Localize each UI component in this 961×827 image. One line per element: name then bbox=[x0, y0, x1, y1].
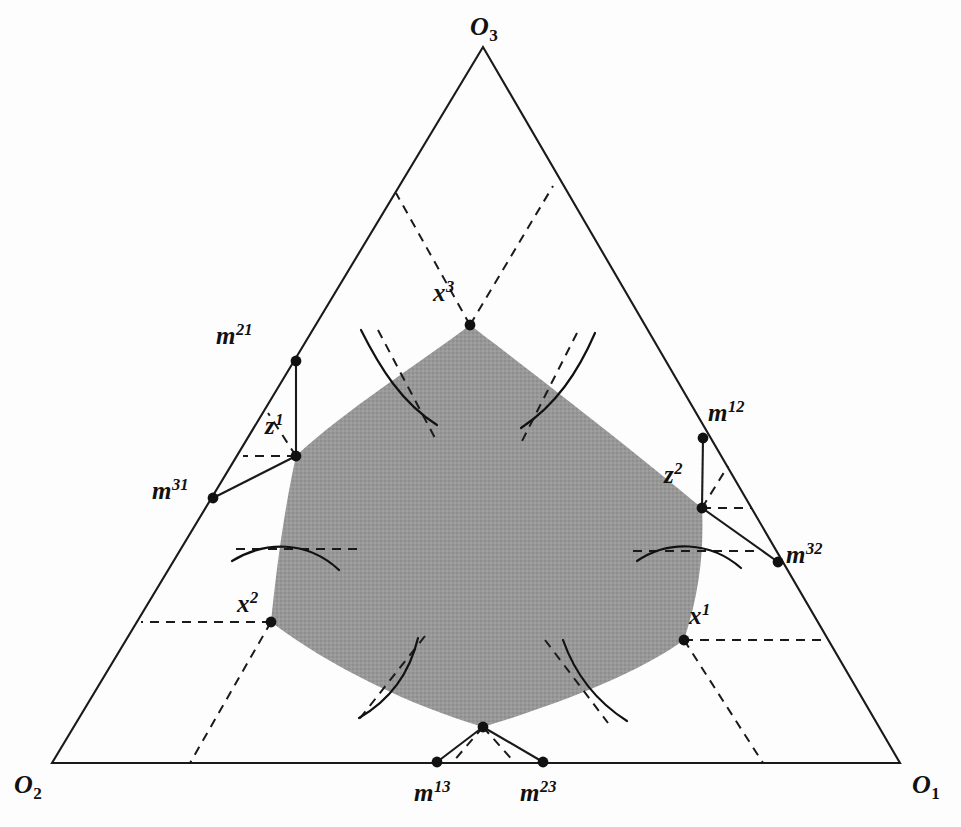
corner-label-O1-base: O bbox=[912, 770, 931, 799]
point-label-z1-superscript: 1 bbox=[275, 410, 283, 429]
core-region-shaded bbox=[271, 325, 702, 727]
point-label-m31-superscript: 31 bbox=[172, 475, 189, 494]
point-label-z2: z2 bbox=[664, 462, 682, 487]
point-label-x2-base: x bbox=[237, 590, 250, 617]
point-label-m21: m21 bbox=[216, 323, 252, 348]
connector-m12-z2 bbox=[702, 438, 703, 508]
point-label-m31-base: m bbox=[152, 477, 171, 504]
point-label-m32-superscript: 32 bbox=[806, 539, 823, 558]
connector-m31-z1 bbox=[213, 456, 296, 498]
point-label-x2: x2 bbox=[237, 591, 258, 616]
corner-label-O3: O3 bbox=[470, 14, 498, 40]
point-label-x1: x1 bbox=[689, 603, 710, 628]
point-label-x1-superscript: 1 bbox=[702, 600, 710, 619]
point-label-z2-superscript: 2 bbox=[674, 459, 682, 478]
point-label-m12-base: m bbox=[708, 399, 727, 426]
point-label-m13: m13 bbox=[414, 780, 450, 805]
point-label-x1-base: x bbox=[689, 602, 702, 629]
dot-x3 bbox=[465, 320, 476, 331]
point-label-m12: m12 bbox=[708, 400, 744, 425]
diagram-canvas: O3 O2 O1 x3 x2 x1 z1 z2 m21 m31 m12 m32 … bbox=[0, 0, 961, 827]
connector-m13-z3 bbox=[437, 727, 483, 762]
dot-x1 bbox=[679, 635, 690, 646]
dashed-z3-downright bbox=[483, 727, 515, 763]
point-label-m32: m32 bbox=[786, 542, 822, 567]
point-label-z2-base: z bbox=[664, 461, 674, 488]
dashed-x2-downright bbox=[190, 622, 271, 763]
dot-x2 bbox=[266, 617, 277, 628]
dot-m13 bbox=[432, 757, 443, 768]
point-label-m21-superscript: 21 bbox=[236, 320, 253, 339]
corner-label-O2-subscript: 2 bbox=[33, 784, 42, 803]
point-label-m23: m23 bbox=[520, 780, 556, 805]
point-label-z1-base: z bbox=[265, 412, 275, 439]
connector-m23-z3 bbox=[483, 727, 543, 762]
dot-m23 bbox=[538, 757, 549, 768]
dot-m31 bbox=[208, 493, 219, 504]
corner-label-O3-subscript: 3 bbox=[489, 26, 498, 45]
dashed-x3-upright bbox=[470, 186, 553, 325]
simplex-diagram-svg bbox=[0, 0, 961, 827]
dot-m12 bbox=[698, 433, 709, 444]
point-label-x3-base: x bbox=[433, 279, 446, 306]
corner-label-O1: O1 bbox=[912, 772, 940, 798]
dot-m32 bbox=[773, 557, 784, 568]
dashed-z2-upright bbox=[702, 466, 728, 508]
point-label-m12-superscript: 12 bbox=[728, 397, 745, 416]
point-label-m21-base: m bbox=[216, 322, 235, 349]
dashed-x1-downleft bbox=[684, 640, 763, 763]
dot-z1 bbox=[291, 451, 302, 462]
point-label-m32-base: m bbox=[786, 541, 805, 568]
corner-label-O2-base: O bbox=[14, 770, 33, 799]
corner-label-O1-subscript: 1 bbox=[931, 784, 940, 803]
corner-label-O3-base: O bbox=[470, 12, 489, 41]
dashed-z3-downleft bbox=[452, 727, 483, 763]
point-label-m23-superscript: 23 bbox=[540, 777, 557, 796]
dot-z2 bbox=[697, 503, 708, 514]
point-label-x2-superscript: 2 bbox=[250, 588, 258, 607]
point-label-m13-superscript: 13 bbox=[434, 777, 451, 796]
corner-label-O2: O2 bbox=[14, 772, 42, 798]
point-label-x3: x3 bbox=[433, 280, 454, 305]
point-label-m13-base: m bbox=[414, 779, 433, 806]
point-label-m31: m31 bbox=[152, 478, 188, 503]
point-label-m23-base: m bbox=[520, 779, 539, 806]
point-label-z1: z1 bbox=[265, 413, 283, 438]
dot-z3 bbox=[478, 722, 489, 733]
dot-m21 bbox=[291, 356, 302, 367]
point-label-x3-superscript: 3 bbox=[446, 277, 454, 296]
